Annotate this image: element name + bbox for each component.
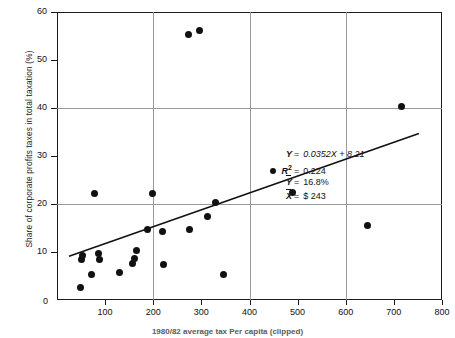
data-point bbox=[88, 271, 95, 278]
x-tick bbox=[105, 300, 106, 305]
x-tick bbox=[250, 300, 251, 305]
x-mean-value: $ 243 bbox=[303, 192, 326, 201]
data-point bbox=[364, 222, 371, 229]
y-mean-symbol: Y bbox=[262, 178, 292, 187]
y-tick-label: 20 bbox=[37, 198, 47, 208]
x-tick-label: 800 bbox=[434, 307, 449, 317]
scatter-plot-figure: Share of corporate profits taxes in tota… bbox=[0, 0, 455, 338]
y-axis-origin-label: 0 bbox=[43, 296, 48, 306]
x-tick-label: 500 bbox=[290, 307, 305, 317]
r-squared-value: 0.224 bbox=[303, 167, 326, 176]
annotation-equation-row: Y = 0.0352X + 8.21 bbox=[262, 150, 365, 164]
x-tick bbox=[394, 300, 395, 305]
x-tick bbox=[442, 300, 443, 305]
y-mean-equals: = bbox=[294, 178, 299, 187]
x-mean-symbol: X bbox=[262, 192, 292, 201]
y-mean-value: 16.8% bbox=[303, 178, 329, 187]
annotation-r-squared-row: R2 = 0.224 bbox=[262, 164, 365, 178]
data-point bbox=[185, 31, 192, 38]
x-tick bbox=[153, 300, 154, 305]
x-tick-label: 400 bbox=[242, 307, 257, 317]
equation-equals: = bbox=[294, 150, 299, 159]
x-tick-label: 300 bbox=[194, 307, 209, 317]
data-point bbox=[220, 271, 227, 278]
x-tick-label: 600 bbox=[338, 307, 353, 317]
x-tick bbox=[201, 300, 202, 305]
y-tick-label: 40 bbox=[37, 102, 47, 112]
y-tick-label: 50 bbox=[37, 54, 47, 64]
x-axis-caption: 1980/82 average tax Per capita (clipped) bbox=[0, 327, 455, 336]
regression-trendline bbox=[57, 12, 442, 300]
y-axis-title: Share of corporate profits taxes in tota… bbox=[24, 24, 34, 274]
equation-symbol: Y bbox=[262, 150, 292, 159]
x-tick-label: 100 bbox=[98, 307, 113, 317]
y-tick-label: 10 bbox=[37, 246, 47, 256]
annotation-x-mean-row: X = $ 243 bbox=[262, 192, 365, 206]
annotation-y-mean-row: Y = 16.8% bbox=[262, 178, 365, 192]
data-point bbox=[212, 199, 219, 206]
regression-annotation: Y = 0.0352X + 8.21 R2 = 0.224 Y = 16.8% … bbox=[262, 150, 365, 206]
data-point bbox=[77, 284, 84, 291]
data-point bbox=[160, 261, 167, 268]
equation-value: 0.0352X + 8.21 bbox=[303, 150, 364, 159]
x-tick-label: 200 bbox=[146, 307, 161, 317]
data-point bbox=[96, 256, 103, 263]
x-tick-label: 700 bbox=[386, 307, 401, 317]
r-squared-equals: = bbox=[294, 167, 299, 176]
annotation-marker-icon bbox=[270, 168, 276, 174]
data-point bbox=[133, 247, 140, 254]
plot-area: 102030405060 100200300400500600700800 0 bbox=[57, 12, 442, 300]
data-point bbox=[398, 103, 405, 110]
data-point bbox=[116, 269, 123, 276]
x-tick bbox=[298, 300, 299, 305]
data-point bbox=[131, 255, 138, 262]
x-mean-equals: = bbox=[294, 192, 299, 201]
x-tick bbox=[346, 300, 347, 305]
y-tick-label: 30 bbox=[37, 150, 47, 160]
y-tick-label: 60 bbox=[37, 6, 47, 16]
